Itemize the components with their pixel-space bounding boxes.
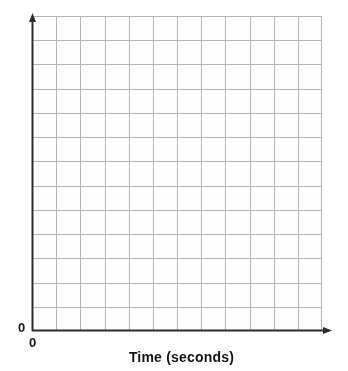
y-axis-origin-label: 0 <box>18 321 25 334</box>
x-axis-arrow-icon <box>323 327 332 334</box>
y-axis-arrow-icon <box>29 13 36 22</box>
axes-group <box>0 0 348 371</box>
x-axis-title: Time (seconds) <box>32 349 331 366</box>
x-axis-origin-label: 0 <box>29 336 36 349</box>
blank-graph-figure: 0 0 Time (seconds) <box>0 0 348 371</box>
